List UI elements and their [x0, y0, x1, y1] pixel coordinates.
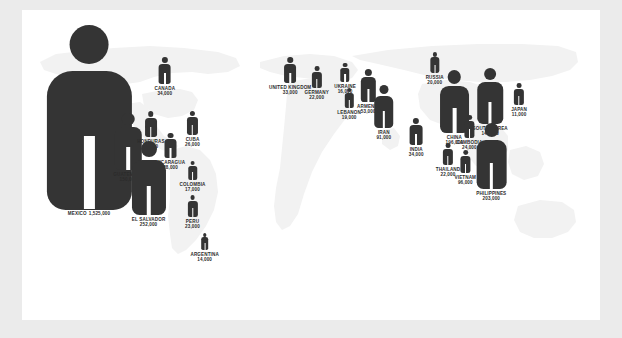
person-icon-head	[413, 118, 419, 124]
country-value: 34,000	[154, 91, 175, 97]
pictogram-marker-layer: MEXICO1,525,000CANADA34,000GUATEMALA150,…	[22, 10, 600, 320]
person-icon-head	[190, 195, 195, 200]
country-marker: CAMBODIA24,000	[464, 115, 475, 138]
country-value: 22,000	[305, 95, 329, 101]
country-marker: UNITED KINGDOM33,000	[284, 57, 296, 83]
person-icon-head	[190, 111, 195, 116]
person-icon	[374, 85, 394, 128]
person-icon-head	[162, 57, 168, 63]
person-icon	[132, 141, 166, 215]
country-name: IRAN	[376, 130, 391, 136]
country-name: THAILAND	[436, 167, 460, 173]
country-label: IRAN91,000	[376, 130, 391, 142]
country-marker: RUSSIA20,000	[430, 52, 440, 73]
country-label: VIETNAM96,000	[455, 175, 477, 187]
person-icon	[165, 133, 177, 158]
person-icon	[201, 233, 209, 250]
country-marker: HONDURAS31,000	[145, 111, 157, 137]
country-name: INDIA	[409, 147, 424, 153]
person-icon-leg-gap	[383, 111, 386, 128]
country-label: COLOMBIA17,000	[180, 182, 206, 194]
country-marker: CUBA26,000	[187, 111, 198, 135]
person-icon-leg-gap	[84, 136, 95, 210]
person-icon-leg-gap	[518, 96, 519, 105]
person-icon	[514, 83, 524, 105]
person-icon	[312, 66, 322, 88]
country-marker: UKRAINE16,000	[341, 63, 350, 82]
country-label: CUBA26,000	[185, 137, 200, 149]
country-name: PERU	[185, 219, 200, 225]
country-name: VIETNAM	[455, 175, 477, 181]
person-icon	[159, 57, 171, 84]
country-name: CANADA	[154, 86, 175, 92]
person-icon-head	[365, 69, 372, 76]
person-icon-leg-gap	[164, 73, 166, 84]
person-icon-head	[343, 63, 347, 67]
country-label: LEBANON19,000	[337, 110, 361, 122]
country-name: ARGENTINA	[190, 252, 218, 258]
person-icon-head	[203, 233, 207, 237]
person-icon	[145, 111, 157, 137]
person-icon	[443, 143, 453, 165]
person-icon	[187, 111, 198, 135]
country-name: CUBA	[185, 137, 200, 143]
country-marker: EL SALVADOR252,000	[132, 141, 166, 215]
person-icon-head	[446, 143, 451, 148]
person-icon-leg-gap	[434, 65, 435, 73]
country-value: 17,000	[180, 187, 206, 193]
country-marker: JAPAN11,000	[514, 83, 524, 105]
country-label: PERU23,000	[185, 219, 200, 231]
person-icon-head	[463, 150, 468, 155]
person-icon-leg-gap	[192, 172, 193, 180]
person-icon-head	[69, 25, 109, 65]
person-icon-head	[148, 111, 154, 117]
person-icon	[430, 52, 440, 73]
person-icon-head	[484, 68, 496, 80]
person-icon	[464, 115, 475, 138]
country-name: GERMANY	[305, 90, 329, 96]
person-icon-leg-gap	[316, 79, 317, 88]
country-value: 91,000	[376, 135, 391, 141]
person-icon-leg-gap	[170, 148, 171, 158]
person-icon-leg-gap	[289, 73, 291, 83]
person-icon	[187, 195, 197, 217]
person-icon-leg-gap	[489, 163, 493, 189]
person-icon-leg-gap	[367, 89, 369, 102]
country-marker: COLOMBIA17,000	[188, 161, 197, 180]
person-icon	[477, 68, 503, 124]
person-icon-leg-gap	[415, 134, 417, 145]
person-icon-head	[168, 133, 173, 138]
country-label: EL SALVADOR252,000	[132, 217, 165, 229]
country-value: 26,000	[185, 142, 200, 148]
country-label: PHILIPPINES203,000	[476, 191, 506, 203]
person-icon-leg-gap	[192, 125, 193, 135]
person-icon-head	[347, 88, 351, 92]
country-marker: ARGENTINA14,000	[201, 233, 209, 250]
country-name: EL SALVADOR	[132, 217, 165, 223]
person-icon-head	[190, 161, 194, 165]
person-icon-leg-gap	[192, 208, 193, 217]
person-icon-head	[484, 123, 498, 137]
country-label: GERMANY22,000	[305, 90, 329, 102]
country-marker: LEBANON19,000	[345, 88, 354, 108]
country-value: 34,000	[409, 152, 424, 158]
country-value: 19,000	[337, 115, 361, 121]
person-icon-leg-gap	[127, 147, 130, 170]
person-icon-head	[314, 66, 319, 71]
country-label: ARGENTINA14,000	[190, 252, 218, 264]
country-marker: NICARAGUA28,000	[165, 133, 177, 158]
country-value: 252,000	[132, 222, 165, 228]
person-icon-leg-gap	[469, 129, 470, 138]
country-value: 23,000	[185, 224, 200, 230]
country-name: PHILIPPINES	[476, 191, 506, 197]
country-marker: IRAN91,000	[374, 85, 394, 128]
person-icon-leg-gap	[452, 108, 456, 133]
country-value: 11,000	[511, 112, 527, 118]
person-icon	[341, 63, 350, 82]
country-marker: THAILAND22,000	[443, 143, 453, 165]
country-label: INDIA34,000	[409, 147, 424, 159]
person-icon-leg-gap	[489, 102, 492, 124]
person-icon-head	[467, 115, 472, 120]
country-value: 14,000	[190, 257, 218, 263]
person-icon-leg-gap	[345, 74, 346, 82]
